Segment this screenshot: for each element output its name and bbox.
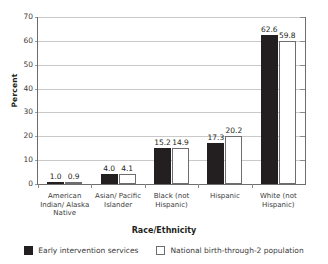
legend-label: National birth-through-2 population	[170, 246, 303, 255]
gridline	[38, 17, 305, 18]
y-axis-tick-label: 30	[13, 107, 33, 116]
right-axis-tick-mark	[300, 160, 305, 161]
bar-value-label: 20.2	[221, 126, 246, 135]
x-axis-line	[37, 184, 306, 185]
x-axis-separator-tick	[252, 184, 253, 188]
bar-early-intervention	[101, 174, 118, 184]
bar-early-intervention	[207, 143, 224, 184]
y-axis-tick-label: 10	[13, 155, 33, 164]
plot-area	[38, 17, 305, 184]
y-axis-tick-label: 60	[13, 36, 33, 45]
bar-value-label: 59.8	[275, 31, 300, 40]
chart-legend: Early intervention servicesNational birt…	[0, 242, 328, 258]
bar-chart: Percent 010203040506070 American Indian/…	[0, 0, 328, 264]
bar-national-population	[119, 174, 136, 184]
bar-national-population	[225, 136, 242, 184]
x-axis-separator-tick	[198, 184, 199, 188]
y-axis-tick-label: 40	[13, 84, 33, 93]
bar-early-intervention	[47, 182, 64, 184]
y-axis-tick-label: 0	[13, 179, 33, 188]
bar-value-label: 14.9	[168, 138, 193, 147]
x-axis-separator-tick	[145, 184, 146, 188]
legend-item: Early intervention services	[24, 246, 138, 255]
y-axis-tick-label: 70	[13, 12, 33, 21]
y-axis-tick-label: 20	[13, 131, 33, 140]
right-axis-tick-mark	[300, 136, 305, 137]
right-axis-tick-mark	[300, 112, 305, 113]
x-axis-separator-tick	[38, 184, 39, 188]
legend-swatch-dark	[24, 246, 33, 255]
bar-early-intervention	[261, 35, 278, 184]
y-axis-tick-label: 50	[13, 60, 33, 69]
legend-swatch-light	[156, 246, 165, 255]
bar-national-population	[65, 182, 82, 184]
legend-item: National birth-through-2 population	[156, 246, 303, 255]
bar-early-intervention	[154, 148, 171, 184]
cropped-chart-title	[70, 0, 260, 4]
right-axis-tick-mark	[300, 89, 305, 90]
bar-national-population	[172, 148, 189, 184]
legend-label: Early intervention services	[38, 246, 138, 255]
bar-value-label: 0.9	[61, 172, 86, 181]
x-axis-category-label: White (not Hispanic)	[249, 192, 308, 209]
right-axis-tick-mark	[300, 17, 305, 18]
x-axis-separator-tick	[91, 184, 92, 188]
x-axis-category-label: Hispanic	[195, 192, 254, 201]
x-axis-category-label: Asian/ Pacific Islander	[88, 192, 147, 209]
x-axis-category-label: Black (not Hispanic)	[142, 192, 201, 209]
right-axis-tick-mark	[300, 41, 305, 42]
right-axis-tick-mark	[300, 65, 305, 66]
right-axis-line	[305, 17, 306, 185]
bar-national-population	[279, 41, 296, 184]
x-axis-title: Race/Ethnicity	[0, 226, 328, 235]
x-axis-category-label: American Indian/ Alaska Native	[35, 192, 94, 218]
bar-value-label: 4.1	[115, 164, 140, 173]
